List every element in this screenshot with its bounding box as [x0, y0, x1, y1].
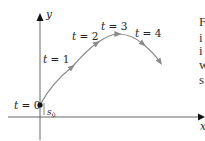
x-axis [8, 114, 205, 121]
x-axis-label: x [200, 120, 205, 132]
time-label-t3: t = 3 [101, 20, 127, 32]
trajectory-figure: y x s0 t = 0 t = 1 t = 2 t = 3 t = 4 F i… [0, 0, 205, 141]
y-axis-label: y [45, 8, 53, 20]
time-label-t4: t = 4 [135, 27, 162, 39]
side-text-line: i [199, 43, 203, 58]
time-label-t0: t = 0 [14, 99, 40, 111]
side-text-line: F [199, 14, 205, 29]
side-text-line: s [199, 72, 204, 87]
time-label-t2: t = 2 [72, 30, 98, 42]
time-label-t1: t = 1 [43, 53, 69, 65]
side-text-line: w [199, 57, 205, 72]
initial-position-label: s0 [47, 107, 56, 118]
side-text-column: F i i w s [199, 14, 205, 87]
y-axis [37, 13, 44, 140]
trajectory-curve [40, 34, 160, 105]
y-axis-arrowhead [37, 13, 44, 21]
